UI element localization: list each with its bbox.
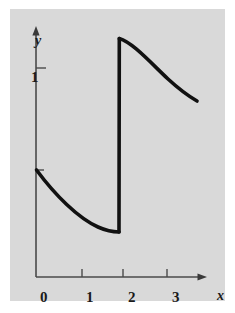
x-tick-label-0: 0: [40, 290, 48, 305]
x-tick-label-2: 2: [128, 290, 136, 305]
plot-canvas: [10, 9, 225, 301]
x-axis-arrowhead: [198, 273, 208, 280]
x-axis-label: x: [217, 289, 224, 303]
x-tick-marks: [82, 269, 167, 277]
x-axis: [36, 273, 207, 280]
y-axis-label: y: [35, 34, 41, 48]
y-axis: [32, 26, 39, 277]
figure-panel: 0 1 2 3 1 x y: [10, 9, 225, 301]
curve-branch-2: [119, 39, 197, 102]
x-tick-label-3: 3: [172, 290, 180, 305]
y-tick-label-1: 1: [31, 70, 39, 85]
curve-branch-1: [37, 170, 120, 232]
figure-page: 0 1 2 3 1 x y: [0, 0, 235, 313]
x-tick-label-1: 1: [86, 290, 94, 305]
